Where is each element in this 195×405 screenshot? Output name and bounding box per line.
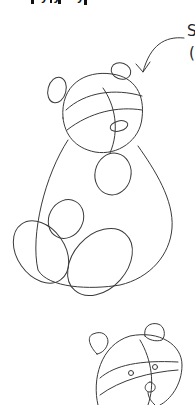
bear-arm bbox=[42, 193, 91, 244]
bear-right-ear bbox=[109, 60, 133, 82]
small-bear-right-eye bbox=[153, 365, 158, 370]
bear-muzzle bbox=[109, 119, 129, 133]
bear-left-ear bbox=[45, 75, 69, 105]
heading-descenders bbox=[31, 0, 87, 5]
small-bear-left-ear bbox=[89, 333, 108, 354]
drawing-canvas bbox=[0, 0, 195, 405]
small-bear-muzzle bbox=[145, 382, 155, 405]
small-bear-head bbox=[96, 335, 182, 405]
bear-belly-spot bbox=[91, 150, 135, 199]
bear-head bbox=[63, 73, 143, 152]
bear-right-foot bbox=[55, 216, 146, 309]
pointer-arrow-icon bbox=[136, 38, 184, 72]
bear-step-sketch-small bbox=[89, 324, 182, 405]
small-bear-left-eye bbox=[129, 371, 134, 376]
bear-step-sketch-large bbox=[2, 60, 172, 308]
bear-body bbox=[36, 140, 172, 287]
